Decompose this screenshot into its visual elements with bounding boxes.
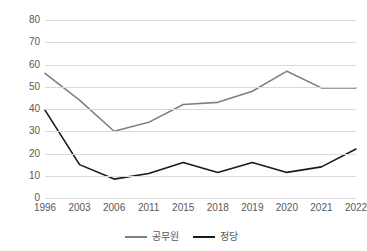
gridline-30 (45, 131, 356, 132)
gridline-60 (45, 65, 356, 66)
x-axis: 1996200320062011201520182019202020212022 (45, 202, 356, 216)
gridline-20 (45, 154, 356, 155)
gridline-70 (45, 42, 356, 43)
y-tick-label: 80 (10, 15, 40, 25)
y-tick-label: 40 (10, 104, 40, 114)
gridline-50 (45, 87, 356, 88)
x-tick-label: 2011 (138, 202, 160, 214)
x-tick-label: 2022 (345, 202, 367, 214)
x-tick-label: 2019 (241, 202, 263, 214)
x-tick-label: 2003 (68, 202, 90, 214)
y-tick-label: 50 (10, 82, 40, 92)
legend-label: 정당 (220, 231, 238, 243)
plot-area (45, 20, 356, 198)
legend-label: 공무원 (152, 231, 179, 243)
chart-legend: 공무원정당 (0, 228, 363, 246)
x-tick-label: 2006 (103, 202, 125, 214)
gridline-0 (45, 198, 356, 199)
legend-line-icon (125, 236, 147, 238)
legend-item[interactable]: 공무원 (125, 231, 179, 243)
x-tick-label: 2015 (172, 202, 194, 214)
y-tick-label: 60 (10, 60, 40, 70)
legend-item[interactable]: 정당 (193, 231, 238, 243)
legend-line-icon (193, 236, 215, 238)
x-tick-label: 2020 (276, 202, 298, 214)
series-line (45, 110, 356, 179)
y-tick-label: 30 (10, 126, 40, 136)
x-tick-label: 2021 (310, 202, 332, 214)
gridline-40 (45, 109, 356, 110)
gridline-80 (45, 20, 356, 21)
y-tick-label: 20 (10, 149, 40, 159)
y-axis: 01020304050607080 (5, 20, 40, 198)
series-line (45, 71, 356, 131)
y-tick-label: 70 (10, 37, 40, 47)
x-tick-label: 1996 (34, 202, 56, 214)
x-tick-label: 2018 (207, 202, 229, 214)
gridline-10 (45, 176, 356, 177)
y-tick-label: 10 (10, 171, 40, 181)
